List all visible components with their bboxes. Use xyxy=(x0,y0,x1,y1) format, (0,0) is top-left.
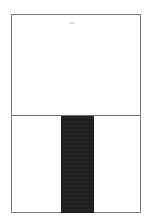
dark-vertical-bar xyxy=(61,116,94,213)
top-panel xyxy=(12,15,140,116)
document-page xyxy=(0,0,149,219)
page-header-text xyxy=(10,6,140,12)
page-frame xyxy=(11,14,141,213)
bottom-panel xyxy=(12,116,140,213)
top-mark xyxy=(70,22,74,24)
